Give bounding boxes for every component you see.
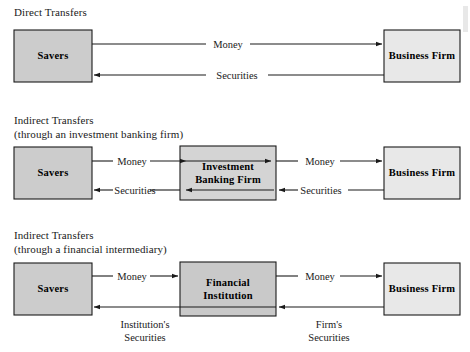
box-label-financial-institution-line1: Financial: [180, 276, 276, 289]
box-label-investment-banking-firm-line2: Banking Firm: [180, 173, 276, 186]
section-caption-investment-line1: Indirect Transfers: [14, 114, 183, 128]
section-caption-investment: Indirect Transfers (through an investmen…: [14, 114, 183, 141]
box-label-financial-institution: Financial Institution: [180, 276, 276, 302]
box-label-investment-banking-firm-line1: Investment: [180, 160, 276, 173]
flow-label-money-left-intermediary: Money: [104, 270, 160, 283]
flow-label-money-direct: Money: [198, 38, 258, 51]
flow-label-firms-securities-line2: Securities: [292, 331, 366, 344]
flow-label-institutions-securities: Institution's Securities: [102, 318, 188, 344]
box-label-savers-intermediary: Savers: [14, 282, 92, 295]
section-caption-intermediary-line2: (through a financial intermediary): [14, 243, 167, 257]
box-label-financial-institution-line2: Institution: [180, 289, 276, 302]
box-label-business-firm-intermediary: Business Firm: [384, 282, 460, 295]
flow-label-institutions-securities-line1: Institution's: [102, 318, 188, 331]
flow-label-securities-right-investment: Securities: [292, 184, 350, 197]
flow-label-firms-securities: Firm's Securities: [292, 318, 366, 344]
scan-edge-artifact: [463, 6, 468, 32]
section-caption-direct-line1: Direct Transfers: [14, 6, 87, 20]
box-label-business-firm-investment: Business Firm: [384, 166, 460, 179]
flow-label-money-right-intermediary: Money: [292, 270, 348, 283]
flow-label-securities-left-investment: Securities: [106, 184, 164, 197]
box-label-savers-direct: Savers: [14, 49, 92, 62]
flow-label-securities-direct: Securities: [200, 69, 274, 82]
flow-label-firms-securities-line1: Firm's: [292, 318, 366, 331]
capital-transfers-diagram: Direct Transfers Indirect Transfers (thr…: [0, 0, 470, 352]
flow-label-money-right-investment: Money: [292, 155, 348, 168]
section-caption-investment-line2: (through an investment banking firm): [14, 128, 183, 142]
box-label-investment-banking-firm: Investment Banking Firm: [180, 160, 276, 186]
section-caption-intermediary: Indirect Transfers (through a financial …: [14, 229, 167, 256]
section-caption-intermediary-line1: Indirect Transfers: [14, 229, 167, 243]
flow-label-money-left-investment: Money: [104, 155, 160, 168]
box-label-business-firm-direct: Business Firm: [384, 49, 460, 62]
flow-label-institutions-securities-line2: Securities: [102, 331, 188, 344]
box-label-savers-investment: Savers: [14, 166, 92, 179]
section-caption-direct: Direct Transfers: [14, 6, 87, 20]
